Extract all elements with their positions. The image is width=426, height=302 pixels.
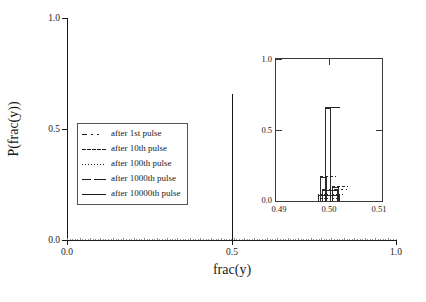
inset-y-tick-label-mid: 0.5 [261,125,272,135]
legend-label-0: after 1st pulse [111,128,161,139]
x-tick-label-2: 1.0 [390,247,402,257]
legend-line-dash-dot-icon [81,129,107,139]
legend-item-0: after 1st pulse [81,126,184,141]
legend-label-3: after 1000th pulse [111,173,176,184]
inset-x-tick-label-2: 0.51 [372,204,387,214]
inset-x-tick-label-1: 0.50 [322,204,337,214]
legend-item-4: after 10000th pulse [81,186,184,201]
inset-plot-area [276,59,382,201]
inset-level-line [320,176,336,177]
inset-x-tick-label-0: 0.49 [272,204,287,214]
legend-label-1: after 10th pulse [111,143,167,154]
inset-plot: 1.0 0.5 0.0 0.49 0.50 0.51 [275,58,383,202]
legend-item-3: after 1000th pulse [81,171,184,186]
central-spike [232,94,233,241]
y-tick-label-1: 0.5 [48,124,60,134]
inset-y-tick-label-top: 1.0 [261,54,272,64]
legend-line-long-dash-icon [81,174,107,184]
y-tick-label-2: 1.0 [48,13,60,23]
inset-level-line [332,186,348,187]
legend-item-1: after 10th pulse [81,141,184,156]
inset-level-line [325,107,340,108]
x-tick-label-1: 0.5 [226,247,238,257]
legend: after 1st pulse after 10th pulse after 1… [77,123,188,205]
x-axis-title: frac(y) [213,262,251,278]
y-tick-label-0: 0.0 [48,235,60,245]
legend-line-solid-icon [81,189,107,199]
x-tick-label-0: 0.0 [61,247,73,257]
inset-x-tick-top-center [329,59,330,65]
legend-item-2: after 100th pulse [81,156,184,171]
inset-y-tick-mid-right [376,130,382,131]
inset-baseline [321,198,339,199]
inset-y-tick-label-bottom: 0.0 [261,195,272,205]
chart-figure: P(frac(y)) frac(y) 0.0 0.5 1.0 0.0 0.5 1… [0,0,426,302]
inset-level-line [322,189,347,190]
inset-y-tick-mid [276,130,282,131]
legend-line-dashed-icon [81,144,107,154]
y-axis-title: P(frac(y)) [6,101,22,156]
legend-label-4: after 10000th pulse [111,188,180,199]
legend-line-dotted-icon [81,159,107,169]
inset-y-tick-top [276,59,282,60]
inset-level-line [318,194,344,195]
legend-label-2: after 100th pulse [111,158,171,169]
